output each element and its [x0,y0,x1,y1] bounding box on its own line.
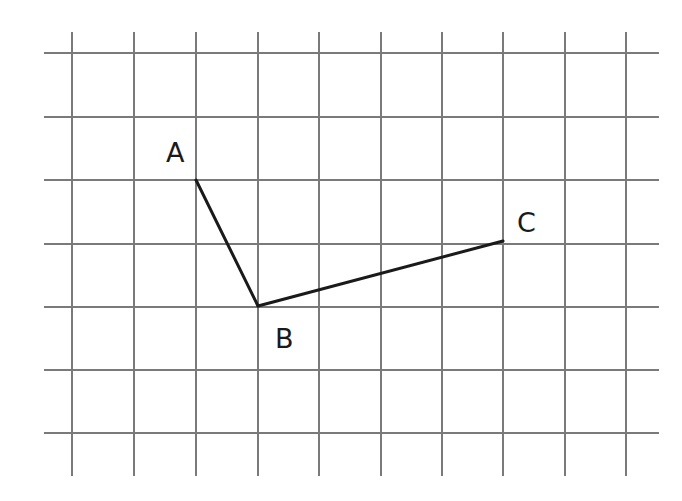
grid [44,32,659,476]
grid-diagram: A B C [0,0,682,501]
label-point-c: C [517,207,536,238]
label-point-b: B [275,323,294,354]
label-point-a: A [166,137,185,168]
